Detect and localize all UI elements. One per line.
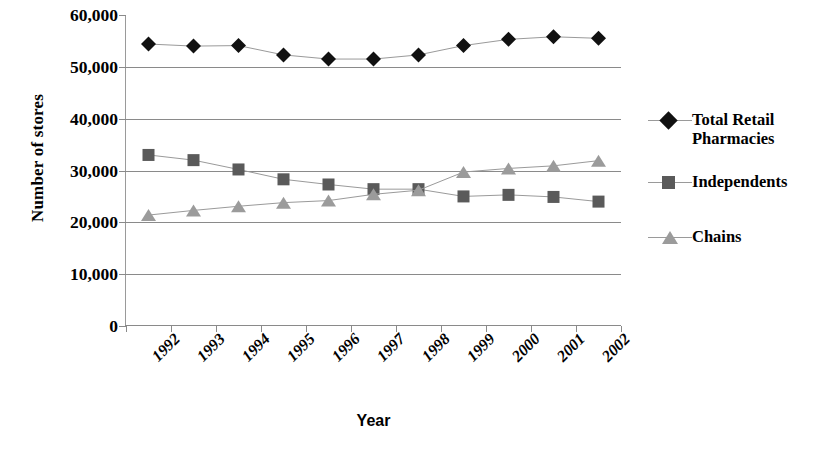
data-series-layer: [126, 15, 621, 326]
y-tick-label: 30,000: [6, 160, 118, 181]
y-axis-tick-labels: 010,00020,00030,00040,00050,00060,000: [0, 0, 118, 340]
diamond-data-marker: [546, 29, 561, 44]
y-tick-label: 60,000: [6, 5, 118, 26]
square-data-marker: [278, 173, 290, 185]
square-data-marker: [548, 191, 560, 203]
square-data-marker: [323, 178, 335, 190]
y-tick-label: 20,000: [6, 212, 118, 233]
x-tick-label: 1995: [283, 330, 318, 365]
x-tick-label: 2002: [598, 330, 633, 365]
x-tick-label: 1994: [238, 330, 273, 365]
legend-marker-shape: [662, 176, 675, 189]
x-tick-label: 1996: [328, 330, 363, 365]
x-axis-title: Year: [126, 412, 621, 430]
y-tick-label: 10,000: [6, 264, 118, 285]
square-data-marker: [143, 149, 155, 161]
diamond-data-marker: [456, 38, 471, 53]
diamond-data-marker: [501, 32, 516, 47]
x-tick-label: 1993: [193, 330, 228, 365]
y-tick-label: 0: [6, 316, 118, 337]
legend-label: Total Retail Pharmacies: [692, 110, 833, 148]
square-data-marker: [188, 154, 200, 166]
square-data-marker: [593, 196, 605, 208]
diamond-data-marker: [141, 37, 156, 52]
legend-key: [648, 228, 692, 248]
chart-container: Number of stores 010,00020,00030,00040,0…: [0, 0, 833, 457]
legend-label: Independents: [692, 172, 787, 191]
x-axis-tick-labels: 1992199319941995199619971998199920002001…: [126, 330, 621, 400]
y-tick-mark: [119, 119, 126, 120]
diamond-data-marker: [186, 39, 201, 54]
y-tick-mark: [119, 326, 126, 327]
diamond-data-marker: [411, 47, 426, 62]
square-data-marker: [458, 190, 470, 202]
diamond-marker-icon: [662, 114, 675, 127]
plot-area: [126, 15, 621, 326]
legend-key: [648, 173, 692, 193]
legend-item[interactable]: Independents: [648, 172, 787, 193]
x-tick-label: 1997: [373, 330, 408, 365]
diamond-data-marker: [321, 52, 336, 67]
legend-marker-shape: [662, 231, 678, 244]
square-data-marker: [233, 163, 245, 175]
legend-key: [648, 111, 692, 131]
triangle-data-marker: [591, 155, 606, 167]
diamond-data-marker: [276, 47, 291, 62]
y-tick-label: 40,000: [6, 108, 118, 129]
diamond-data-marker: [366, 52, 381, 67]
x-tick-label: 1998: [418, 330, 453, 365]
x-tick-label: 1992: [148, 330, 183, 365]
diamond-data-marker: [591, 31, 606, 46]
y-tick-mark: [119, 274, 126, 275]
x-tick-label: 1999: [463, 330, 498, 365]
diamond-data-marker: [231, 38, 246, 53]
y-tick-mark: [119, 222, 126, 223]
legend-label: Chains: [692, 227, 742, 246]
legend-item[interactable]: Total Retail Pharmacies: [648, 110, 833, 148]
y-tick-mark: [119, 171, 126, 172]
triangle-marker-icon: [662, 231, 678, 244]
y-tick-mark: [119, 67, 126, 68]
triangle-data-marker: [141, 209, 156, 221]
y-tick-label: 50,000: [6, 56, 118, 77]
x-tick-label: 2001: [553, 330, 588, 365]
legend-item[interactable]: Chains: [648, 227, 742, 248]
x-tick-label: 2000: [508, 330, 543, 365]
y-tick-mark: [119, 15, 126, 16]
square-data-marker: [503, 189, 515, 201]
square-marker-icon: [662, 176, 675, 189]
legend-marker-shape: [659, 111, 677, 129]
